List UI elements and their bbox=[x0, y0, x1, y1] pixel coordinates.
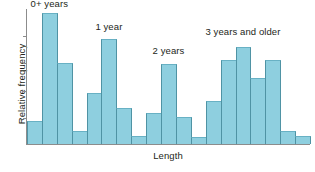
y-axis-tick bbox=[23, 63, 26, 64]
histogram-bar bbox=[101, 39, 117, 144]
histogram-bar bbox=[191, 137, 207, 144]
histogram-bar bbox=[57, 63, 73, 144]
histogram-bar bbox=[280, 131, 296, 145]
histogram-bar bbox=[42, 13, 58, 144]
histogram-bar bbox=[161, 64, 177, 144]
histogram-bar bbox=[295, 136, 311, 144]
histogram-bar bbox=[250, 78, 266, 144]
histogram-bar bbox=[265, 60, 281, 144]
histogram-bar bbox=[221, 60, 237, 144]
histogram-figure: Relative frequency Length 0+ years1 year… bbox=[0, 0, 315, 172]
y-axis-tick bbox=[23, 118, 26, 119]
histogram-bar bbox=[116, 108, 132, 144]
histogram-bar bbox=[146, 113, 162, 144]
y-axis-tick bbox=[23, 36, 26, 37]
histogram-bar bbox=[27, 121, 43, 144]
group-annotation: 1 year bbox=[95, 21, 122, 32]
group-annotation: 3 years and older bbox=[205, 26, 280, 37]
group-annotation: 2 years bbox=[153, 45, 185, 56]
plot-area: 0+ years1 year2 years3 years and older bbox=[26, 9, 310, 145]
histogram-bar bbox=[131, 136, 147, 144]
y-axis-tick bbox=[23, 91, 26, 92]
x-axis-line bbox=[26, 144, 310, 145]
histogram-bar bbox=[176, 117, 192, 144]
x-axis-title: Length bbox=[26, 150, 310, 162]
histogram-bar bbox=[72, 131, 88, 145]
histogram-bar bbox=[236, 47, 252, 144]
histogram-bar bbox=[206, 101, 222, 144]
group-annotation: 0+ years bbox=[31, 0, 69, 9]
histogram-bar bbox=[87, 93, 103, 144]
